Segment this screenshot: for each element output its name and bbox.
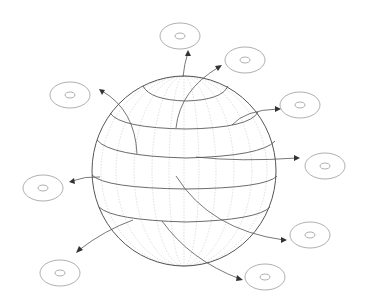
viewer-eye-icon (280, 92, 320, 118)
arrowhead-icon (294, 155, 300, 161)
arrowhead-icon (76, 246, 83, 253)
viewer-eye-icon (290, 222, 330, 248)
viewer-eye-icon (225, 47, 265, 73)
arrowhead-icon (69, 178, 75, 184)
viewer-eye-icon (50, 82, 90, 108)
viewer-eye-icon (23, 175, 63, 201)
viewer-eye-icon (40, 260, 80, 286)
sphere-viewpoint-diagram (0, 0, 365, 308)
arrowhead-icon (185, 50, 191, 56)
arrowhead-icon (215, 65, 222, 71)
trajectory-arrows (69, 50, 300, 281)
meridian-lines (101, 76, 267, 266)
viewer-eye-icon (245, 264, 285, 290)
arrowhead-icon (281, 237, 287, 243)
viewer-eye-icon (305, 153, 345, 179)
viewer-eye-icon (160, 23, 200, 49)
arrowhead-icon (236, 275, 243, 281)
